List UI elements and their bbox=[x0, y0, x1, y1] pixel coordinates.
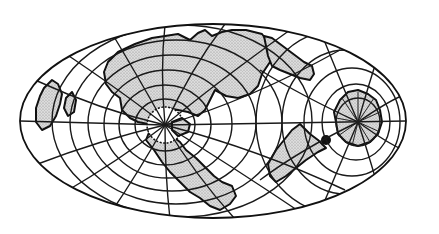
world-map-figure bbox=[0, 0, 439, 234]
landmass-north-central bbox=[104, 30, 272, 124]
map-body bbox=[20, 24, 420, 219]
landmass-lower-right bbox=[268, 124, 326, 182]
